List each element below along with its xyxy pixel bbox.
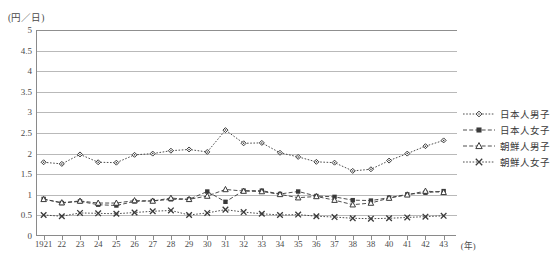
legend-item: 日本人女子 <box>462 122 554 138</box>
x-axis-tick-label: 23 <box>76 239 85 249</box>
legend-label: 朝鮮人女子 <box>496 155 550 169</box>
x-axis-tick <box>44 236 45 240</box>
x-axis-tick-label: 28 <box>167 239 176 249</box>
data-point-diamond <box>350 168 355 173</box>
data-point-triangle <box>423 188 429 193</box>
x-axis-tick-label: 37 <box>330 239 339 249</box>
x-axis-unit-label: (年) <box>461 239 476 251</box>
data-point-diamond <box>314 159 319 164</box>
data-point-cross <box>223 207 229 213</box>
x-axis-tick-label: 34 <box>276 239 285 249</box>
x-axis-tick <box>116 236 117 240</box>
data-point-diamond <box>96 160 101 165</box>
data-point-diamond <box>78 152 83 157</box>
data-point-square <box>476 127 481 132</box>
x-axis-tick <box>153 236 154 240</box>
x-axis-tick-label: 29 <box>185 239 194 249</box>
data-point-cross <box>350 215 356 221</box>
x-axis-tick <box>407 236 408 240</box>
data-point-triangle <box>114 200 120 205</box>
legend-label: 日本人女子 <box>496 123 550 137</box>
x-axis-tick <box>353 236 354 240</box>
legend-item: 朝鮮人男子 <box>462 138 554 154</box>
data-point-diamond <box>114 160 119 165</box>
x-axis-tick <box>171 236 172 240</box>
x-axis-tick <box>335 236 336 240</box>
legend-label: 日本人男子 <box>496 107 550 121</box>
x-axis-tick <box>425 236 426 240</box>
legend-item: 日本人男子 <box>462 106 554 122</box>
x-axis-tick <box>207 236 208 240</box>
x-axis-tick-label: 24 <box>94 239 103 249</box>
data-point-triangle <box>59 200 65 205</box>
x-axis-tick <box>189 236 190 240</box>
data-point-diamond <box>441 138 446 143</box>
data-point-square <box>223 200 227 204</box>
data-point-square <box>296 189 300 193</box>
data-point-diamond <box>332 160 337 165</box>
x-axis-tick-label: 40 <box>385 239 394 249</box>
x-axis-tick-label: 38 <box>348 239 357 249</box>
x-axis-tick-label: 36 <box>312 239 321 249</box>
x-axis-tick <box>371 236 372 240</box>
data-point-cross <box>41 212 47 218</box>
x-axis-tick <box>389 236 390 240</box>
chart-legend: 日本人男子日本人女子朝鮮人男子朝鮮人女子 <box>462 106 554 170</box>
data-point-triangle <box>77 198 83 203</box>
data-point-triangle <box>95 200 101 205</box>
x-axis-tick-label: 43 <box>439 239 448 249</box>
x-axis-tick-labels: 1921222324252627282930313233343536373838… <box>36 239 506 259</box>
data-point-cross <box>95 211 101 217</box>
data-point-diamond <box>405 151 410 156</box>
x-axis-tick <box>298 236 299 240</box>
x-axis-tick-label: 35 <box>294 239 303 249</box>
legend-marker-triangle-icon <box>462 139 496 153</box>
data-point-diamond <box>187 147 192 152</box>
x-axis-tick-label: 42 <box>421 239 430 249</box>
data-point-diamond <box>205 149 210 154</box>
x-axis-tick <box>444 236 445 240</box>
series-line-日本人男子 <box>44 130 444 171</box>
data-point-triangle <box>205 193 211 198</box>
data-point-diamond <box>368 167 373 172</box>
data-point-diamond <box>423 144 428 149</box>
data-point-diamond <box>387 158 392 163</box>
data-point-cross <box>441 213 447 219</box>
x-axis-tick <box>135 236 136 240</box>
legend-label: 朝鮮人男子 <box>496 139 550 153</box>
x-axis-tick-label: 33 <box>258 239 267 249</box>
data-point-triangle <box>295 195 301 200</box>
x-axis-tick <box>262 236 263 240</box>
x-axis-tick <box>98 236 99 240</box>
x-axis-tick <box>280 236 281 240</box>
data-point-diamond <box>278 150 283 155</box>
data-point-cross <box>150 208 156 214</box>
x-axis-tick <box>316 236 317 240</box>
data-point-triangle <box>350 202 356 207</box>
x-axis-tick-label: 25 <box>112 239 121 249</box>
x-axis-tick-label: 27 <box>148 239 157 249</box>
legend-marker-diamond-icon <box>462 107 496 121</box>
x-axis-tick <box>244 236 245 240</box>
legend-item: 朝鮮人女子 <box>462 154 554 170</box>
data-point-triangle <box>186 196 192 201</box>
data-point-triangle <box>168 195 174 200</box>
x-axis-tick-label: 41 <box>403 239 412 249</box>
data-point-diamond <box>59 161 64 166</box>
data-point-diamond <box>132 152 137 157</box>
chart-container: (円／日) 00.511.522.533.544.55 192122232425… <box>0 0 554 271</box>
x-axis-tick <box>225 236 226 240</box>
x-axis-tick-label: 1921 <box>35 239 52 249</box>
data-point-diamond <box>168 148 173 153</box>
x-axis-tick-label: 31 <box>221 239 230 249</box>
x-axis-tick-label: 38 <box>367 239 376 249</box>
legend-marker-square-icon <box>462 123 496 137</box>
series-line-朝鮮人女子 <box>44 210 444 219</box>
data-point-diamond <box>476 111 482 117</box>
legend-marker-cross-icon <box>462 155 496 169</box>
data-point-triangle <box>223 186 229 191</box>
x-axis-tick <box>62 236 63 240</box>
data-point-diamond <box>41 160 46 165</box>
x-axis-tick-label: 26 <box>130 239 139 249</box>
data-point-diamond <box>259 140 264 145</box>
